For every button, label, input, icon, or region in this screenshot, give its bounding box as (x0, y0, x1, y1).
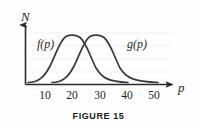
x-tick-label-40: 40 (114, 90, 140, 102)
x-tick-label-50: 50 (141, 90, 167, 102)
curve-label-f: f(p) (37, 38, 54, 50)
figure-caption: FIGURE 15 (0, 111, 197, 121)
curve-label-g: g(p) (127, 38, 147, 50)
x-tick-label-30: 30 (87, 90, 113, 102)
x-tick-label-10: 10 (32, 90, 58, 102)
y-axis-label: N (21, 10, 30, 23)
figure-15-container: N p f(p) g(p) 10 20 30 40 50 FIGURE 15 (0, 0, 197, 129)
x-tick-label-20: 20 (59, 90, 85, 102)
x-axis-label: p (178, 81, 185, 94)
